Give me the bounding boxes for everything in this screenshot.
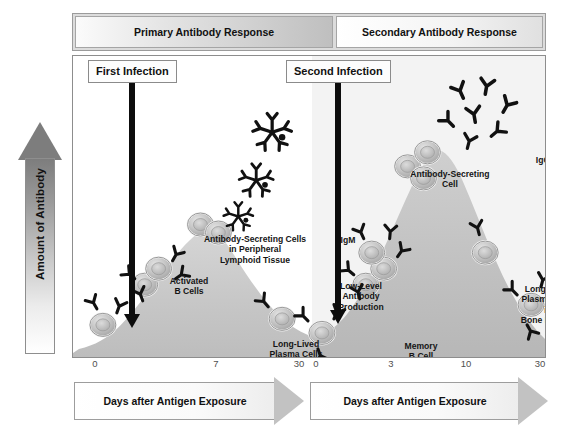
x-axis-arrowhead-secondary xyxy=(518,377,548,425)
tick-right-0: 0 xyxy=(313,358,318,369)
label-long-lived-plasma-cells-left: Long-Lived Plasma Cells in Bone Marrow xyxy=(253,339,339,358)
first-infection-marker: First Infection xyxy=(88,60,177,315)
second-infection-arrow xyxy=(335,83,341,311)
first-infection-arrow xyxy=(129,83,135,315)
x-axis-label-primary: Days after Antigen Exposure xyxy=(103,395,246,407)
label-memory-b-cell-left: Memory B Cell xyxy=(395,341,447,358)
x-axis-label-secondary: Days after Antigen Exposure xyxy=(343,395,486,407)
label-long-lived-plasma-cells-right: Long-Lived Plasma Cells in Bone Marrow xyxy=(508,284,546,326)
y-axis-arrow: Amount of Antibody xyxy=(18,122,62,354)
y-axis-label: Amount of Antibody xyxy=(34,136,46,312)
label-igg: IgG xyxy=(531,155,546,165)
tick-left-0: 0 xyxy=(92,358,97,369)
first-infection-label: First Infection xyxy=(88,60,177,83)
response-phase-header: Primary Antibody Response Secondary Anti… xyxy=(72,13,546,51)
label-antibody-secreting-cell: Antibody-Secreting Cell xyxy=(407,169,493,190)
second-infection-marker: Second Infection xyxy=(286,60,391,311)
second-infection-label: Second Infection xyxy=(286,60,391,83)
header-secondary-response: Secondary Antibody Response xyxy=(336,16,543,48)
tick-right-10: 10 xyxy=(461,358,472,369)
tick-right-30: 30 xyxy=(535,358,546,369)
x-axis-arrow-secondary: Days after Antigen Exposure xyxy=(310,382,550,420)
tick-left-30: 30 xyxy=(294,358,305,369)
tick-right-3: 3 xyxy=(388,358,393,369)
x-axis-arrow-primary: Days after Antigen Exposure xyxy=(74,382,306,420)
tick-left-7: 7 xyxy=(213,358,218,369)
header-primary-response: Primary Antibody Response xyxy=(75,16,333,48)
x-axis-arrowhead-primary xyxy=(274,377,304,425)
